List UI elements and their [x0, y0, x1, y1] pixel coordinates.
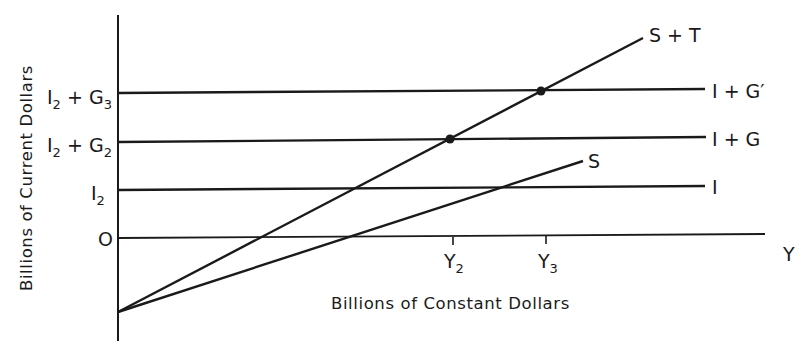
- x-axis-end-label: Y: [782, 243, 795, 265]
- x-axis-title: Billions of Constant Dollars: [331, 294, 570, 313]
- line-i-plus-g-prime: [118, 89, 705, 93]
- y-label-i2-g3: I2 + G3: [47, 86, 112, 112]
- label-i-plus-g-prime: I + G′: [712, 80, 765, 102]
- label-i-plus-g: I + G: [712, 128, 760, 150]
- x-tick-label-y2: Y2: [443, 250, 464, 276]
- curve-s: [118, 161, 583, 312]
- line-i: [118, 186, 705, 190]
- x-tick-label-y3: Y3: [537, 250, 558, 276]
- income-determination-diagram: Billions of Current Dollars I2 + G3 I2 +…: [0, 0, 810, 347]
- y-label-i2: I2: [91, 182, 105, 208]
- label-i: I: [712, 176, 718, 198]
- y-label-zero: O: [98, 228, 113, 250]
- x-axis-zero-line: [118, 234, 765, 238]
- equilibrium-dot-y3: [537, 87, 546, 96]
- curve-s-plus-t: [118, 38, 643, 312]
- label-s: S: [588, 150, 600, 172]
- line-i-plus-g: [118, 137, 706, 142]
- equilibrium-dot-y2: [446, 135, 455, 144]
- y-label-i2-g2: I2 + G2: [47, 134, 112, 160]
- y-axis-title: Billions of Current Dollars: [17, 65, 36, 291]
- label-s-plus-t: S + T: [649, 24, 701, 46]
